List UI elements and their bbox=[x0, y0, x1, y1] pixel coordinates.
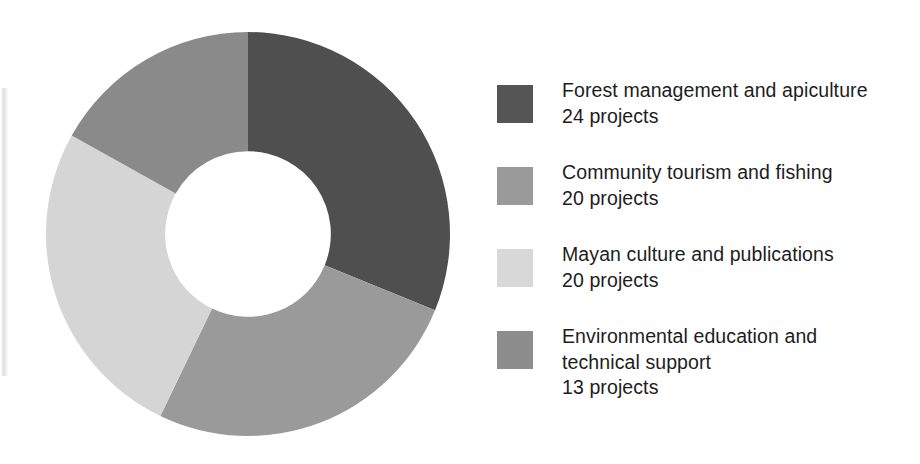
chart-legend: Forest management and apiculture 24 proj… bbox=[497, 78, 907, 401]
chart-page: Forest management and apiculture 24 proj… bbox=[0, 0, 920, 464]
legend-text-forest-management: Forest management and apiculture 24 proj… bbox=[562, 78, 907, 129]
legend-label-community-tourism: Community tourism and fishing bbox=[562, 160, 907, 186]
legend-label-mayan-culture: Mayan culture and publications bbox=[562, 242, 907, 268]
legend-text-environmental-education: Environmental education and technical su… bbox=[562, 324, 907, 401]
scan-edge-artifact bbox=[1, 88, 8, 376]
legend-swatch-mayan-culture bbox=[497, 249, 533, 287]
legend-value-environmental-education: 13 projects bbox=[562, 375, 907, 401]
legend-swatch-forest-management bbox=[497, 85, 533, 123]
legend-text-community-tourism: Community tourism and fishing 20 project… bbox=[562, 160, 907, 211]
legend-value-mayan-culture: 20 projects bbox=[562, 268, 907, 294]
legend-swatch-community-tourism bbox=[497, 167, 533, 205]
legend-item-forest-management[interactable]: Forest management and apiculture 24 proj… bbox=[497, 78, 907, 129]
donut-slice[interactable] bbox=[248, 32, 450, 310]
legend-text-mayan-culture: Mayan culture and publications 20 projec… bbox=[562, 242, 907, 293]
legend-value-forest-management: 24 projects bbox=[562, 104, 907, 130]
donut-chart bbox=[45, 31, 451, 437]
legend-swatch-environmental-education bbox=[497, 331, 533, 369]
legend-label-forest-management: Forest management and apiculture bbox=[562, 78, 907, 104]
legend-item-environmental-education[interactable]: Environmental education and technical su… bbox=[497, 324, 907, 401]
donut-chart-svg bbox=[45, 31, 451, 437]
legend-item-community-tourism[interactable]: Community tourism and fishing 20 project… bbox=[497, 160, 907, 211]
legend-item-mayan-culture[interactable]: Mayan culture and publications 20 projec… bbox=[497, 242, 907, 293]
legend-label-environmental-education: Environmental education and technical su… bbox=[562, 324, 907, 375]
legend-value-community-tourism: 20 projects bbox=[562, 186, 907, 212]
donut-slice-group bbox=[46, 32, 450, 436]
